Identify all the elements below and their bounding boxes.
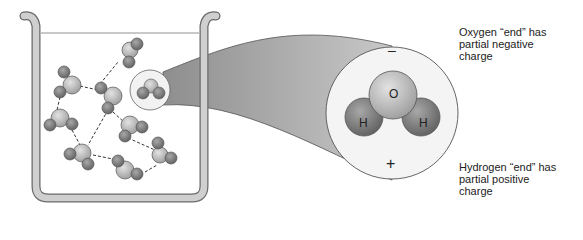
- hydrogen-right-label: H: [419, 117, 428, 129]
- annotation-line: partial negative: [459, 38, 546, 50]
- annotation-line: Oxygen “end” has: [459, 26, 546, 38]
- annotation-line: Hydrogen “end” has: [459, 161, 556, 173]
- oxygen-end-annotation: Oxygen “end” has partial negative charge: [459, 26, 546, 62]
- negative-charge-symbol: –: [388, 44, 396, 56]
- annotation-line: charge: [459, 50, 546, 62]
- magnifier-small: [130, 70, 170, 110]
- hydrogen-left-label: H: [359, 117, 368, 129]
- oxygen-atom-label: O: [389, 88, 398, 100]
- annotation-line: partial positive: [459, 173, 556, 185]
- annotation-line: charge: [459, 185, 556, 197]
- hydrogen-end-annotation: Hydrogen “end” has partial positive char…: [459, 161, 556, 197]
- positive-charge-symbol: +: [386, 158, 395, 170]
